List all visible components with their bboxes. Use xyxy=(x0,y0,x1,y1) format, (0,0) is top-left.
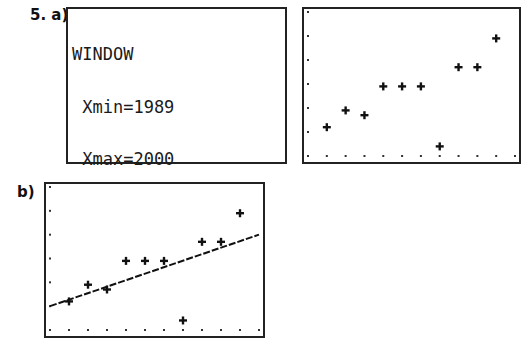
data-point-plus-marker xyxy=(473,63,481,71)
data-point-plus-marker xyxy=(455,63,463,71)
x-tick-dot xyxy=(163,329,165,331)
x-tick-dot xyxy=(345,155,347,157)
scatter-plot-screen-a xyxy=(302,7,521,164)
data-point-plus-marker xyxy=(360,111,368,119)
data-point-plus-marker xyxy=(492,34,500,42)
data-point-plus-marker xyxy=(323,123,331,131)
x-tick-dot xyxy=(125,329,127,331)
x-tick-dot xyxy=(420,155,422,157)
data-point-plus-marker xyxy=(398,82,406,90)
x-tick-dot xyxy=(258,329,260,331)
x-tick-dot xyxy=(49,329,51,331)
x-tick-dot xyxy=(363,155,365,157)
y-tick-dot xyxy=(307,11,309,13)
scatter-plot-screen-b xyxy=(44,182,265,338)
x-tick-dot xyxy=(68,329,70,331)
y-tick-dot xyxy=(307,59,309,61)
x-tick-dot xyxy=(106,329,108,331)
x-tick-dot xyxy=(201,329,203,331)
y-tick-dot xyxy=(307,131,309,133)
x-tick-dot xyxy=(182,329,184,331)
problem-label: 5. a) xyxy=(30,6,68,24)
window-settings-screen: WINDOW Xmin=1989 Xmax=2000 Xscl=1 Ymin=1… xyxy=(66,7,287,164)
data-point-plus-marker xyxy=(160,257,168,265)
y-tick-dot xyxy=(49,258,51,260)
y-tick-dot xyxy=(49,234,51,236)
x-tick-dot xyxy=(439,155,441,157)
data-point-plus-marker xyxy=(417,82,425,90)
y-tick-dot xyxy=(49,210,51,212)
y-tick-dot xyxy=(307,107,309,109)
data-point-plus-marker xyxy=(179,316,187,324)
regression-line xyxy=(50,235,259,307)
scatter-plot-b-with-regression xyxy=(46,184,263,336)
y-tick-dot xyxy=(307,35,309,37)
data-point-plus-marker xyxy=(379,82,387,90)
window-title: WINDOW xyxy=(72,46,174,64)
data-point-plus-marker xyxy=(217,238,225,246)
x-tick-dot xyxy=(220,329,222,331)
data-point-plus-marker xyxy=(236,209,244,217)
x-tick-dot xyxy=(382,155,384,157)
x-tick-dot xyxy=(514,155,516,157)
data-point-plus-marker xyxy=(342,106,350,114)
data-point-plus-marker xyxy=(141,257,149,265)
x-tick-dot xyxy=(458,155,460,157)
setting-xmax: Xmax=2000 xyxy=(72,151,174,169)
data-point-plus-marker xyxy=(198,238,206,246)
x-tick-dot xyxy=(239,329,241,331)
x-tick-dot xyxy=(307,155,309,157)
y-tick-dot xyxy=(49,281,51,283)
x-tick-dot xyxy=(476,155,478,157)
setting-xmin: Xmin=1989 xyxy=(72,99,174,117)
data-point-plus-marker xyxy=(122,257,130,265)
y-tick-dot xyxy=(49,186,51,188)
x-tick-dot xyxy=(495,155,497,157)
x-tick-dot xyxy=(326,155,328,157)
scatter-plot-a xyxy=(304,9,519,162)
x-tick-dot xyxy=(87,329,89,331)
data-point-plus-marker xyxy=(436,142,444,150)
part-b-label: b) xyxy=(17,183,35,201)
x-tick-dot xyxy=(144,329,146,331)
data-point-plus-marker xyxy=(84,281,92,289)
y-tick-dot xyxy=(307,83,309,85)
x-tick-dot xyxy=(401,155,403,157)
